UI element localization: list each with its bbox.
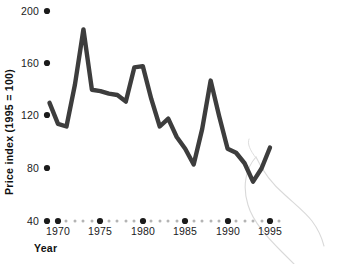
y-tick-dot-200 — [44, 8, 50, 14]
chart-canvas: 200 160 120 80 40 — [0, 0, 337, 264]
y-axis-ticks: 200 160 120 80 40 — [21, 5, 50, 227]
y-tick-dot-40 — [44, 218, 50, 224]
x-tick-dot-1975 — [97, 218, 103, 224]
x-tick-label-1995: 1995 — [258, 225, 282, 237]
y-tick-dot-160 — [44, 60, 50, 66]
y-axis-title: Price index (1995 = 100) — [3, 69, 15, 195]
faint-loop-scribble — [245, 139, 324, 264]
y-tick-label-40: 40 — [27, 215, 39, 227]
x-tick-label-1970: 1970 — [46, 225, 70, 237]
price-index-line-chart: 200 160 120 80 40 — [0, 0, 337, 264]
y-tick-label-80: 80 — [27, 162, 39, 174]
x-tick-label-1975: 1975 — [88, 225, 112, 237]
y-tick-label-200: 200 — [21, 5, 39, 17]
x-axis-ticks: 1970 1975 1980 1985 1990 1995 — [46, 218, 282, 237]
y-tick-dot-80 — [44, 165, 50, 171]
x-tick-dot-1970 — [55, 218, 61, 224]
x-tick-dot-1995 — [267, 218, 273, 224]
y-tick-label-160: 160 — [21, 57, 39, 69]
y-tick-dot-120 — [44, 112, 50, 118]
y-tick-label-120: 120 — [21, 109, 39, 121]
x-tick-dot-1985 — [182, 218, 188, 224]
x-tick-label-1985: 1985 — [173, 225, 197, 237]
x-tick-label-1980: 1980 — [131, 225, 155, 237]
x-tick-dot-1980 — [140, 218, 146, 224]
x-tick-label-1990: 1990 — [216, 225, 240, 237]
x-axis-title: Year — [34, 242, 57, 254]
x-tick-dot-1990 — [225, 218, 231, 224]
price-index-series-line — [50, 29, 270, 181]
